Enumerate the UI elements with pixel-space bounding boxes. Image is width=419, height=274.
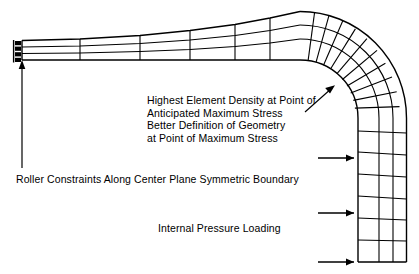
roller-constraint-icon xyxy=(15,58,21,62)
arrow-right-icon-head xyxy=(346,155,354,162)
bend-radial-line-1 xyxy=(308,12,315,60)
horizontal-outer-surface xyxy=(22,12,300,41)
figure-canvas: Highest Element Density at Point of Anti… xyxy=(0,0,419,274)
bend-radial-line-5 xyxy=(337,39,367,74)
roller-leader-line xyxy=(19,60,26,168)
vertical-transverse-line-6 xyxy=(358,240,407,241)
roller-constraint-icon xyxy=(15,47,21,51)
arrow-right-icon-head xyxy=(346,259,354,266)
annotation-internal-pressure: Internal Pressure Loading xyxy=(158,222,281,235)
horizontal-leg-mesh xyxy=(22,12,300,61)
bend-radial-line-7 xyxy=(347,63,385,86)
annotation-roller-constraints: Roller Constraints Along Center Plane Sy… xyxy=(16,173,299,186)
bend-radial-line-8 xyxy=(351,77,392,93)
vertical-transverse-line-2 xyxy=(358,152,407,155)
vertical-leg-mesh xyxy=(358,118,407,262)
roller-constraint-icon xyxy=(15,52,21,56)
pressure-arrow-group xyxy=(318,155,354,266)
arrow-right-icon-head xyxy=(346,210,354,217)
vertical-transverse-line-3 xyxy=(358,174,407,177)
vertical-transverse-line-1 xyxy=(358,131,407,133)
roller-constraint-icon xyxy=(15,41,21,45)
roller-constraint-group xyxy=(14,40,21,63)
vertical-transverse-line-4 xyxy=(358,196,407,199)
annotation-element-density: Highest Element Density at Point of Anti… xyxy=(147,94,316,144)
bend-radial-line-2 xyxy=(316,15,329,62)
vertical-transverse-line-5 xyxy=(358,218,407,220)
